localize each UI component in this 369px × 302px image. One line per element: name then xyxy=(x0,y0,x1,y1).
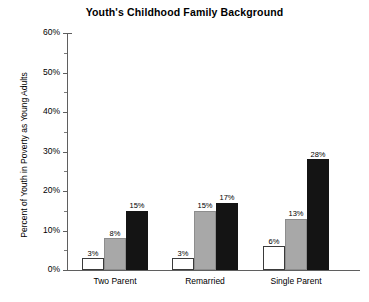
plot-area: 60% 50% 40% 30% 20% 10% 0% 3% xyxy=(67,33,360,270)
y-tick-30: 30% xyxy=(63,152,67,153)
bar-two-parent-series-3[interactable]: 15% xyxy=(126,211,148,270)
bar-single-parent-series-1[interactable]: 6% xyxy=(263,246,285,270)
y-tick-20: 20% xyxy=(63,191,67,192)
y-axis-line xyxy=(67,33,68,270)
bar-label-single-parent-series-1: 6% xyxy=(269,237,280,246)
bar-single-parent-series-2[interactable]: 13% xyxy=(285,219,307,270)
bar-label-remarried-series-2: 15% xyxy=(197,201,212,210)
bar-group-remarried: 3% 15% 17% xyxy=(172,33,252,270)
bar-two-parent-series-1[interactable]: 3% xyxy=(82,258,104,270)
bar-group-single-parent: 6% 13% 28% xyxy=(263,33,343,270)
bar-label-single-parent-series-3: 28% xyxy=(310,150,325,159)
y-tick-40: 40% xyxy=(63,112,67,113)
y-tick-minor-45 xyxy=(64,92,67,93)
y-tick-label-20: 20% xyxy=(43,185,60,195)
x-axis-label-single-parent: Single Parent xyxy=(270,276,321,286)
y-tick-minor-55 xyxy=(64,53,67,54)
bar-remarried-series-3[interactable]: 17% xyxy=(216,203,238,270)
y-tick-minor-35 xyxy=(64,132,67,133)
y-tick-label-30: 30% xyxy=(43,146,60,156)
y-tick-label-60: 60% xyxy=(43,27,60,37)
bar-single-parent-series-3[interactable]: 28% xyxy=(307,159,329,270)
bar-two-parent-series-2[interactable]: 8% xyxy=(104,238,126,270)
x-axis-line xyxy=(67,270,360,271)
y-axis-top-cap xyxy=(67,33,72,34)
bar-label-remarried-series-3: 17% xyxy=(219,193,234,202)
x-axis-label-two-parent: Two Parent xyxy=(94,276,137,286)
bar-group-two-parent: 3% 8% 15% xyxy=(82,33,162,270)
y-tick-10: 10% xyxy=(63,231,67,232)
bar-label-two-parent-series-3: 15% xyxy=(129,201,144,210)
y-tick-label-10: 10% xyxy=(43,225,60,235)
bar-label-two-parent-series-2: 8% xyxy=(110,229,121,238)
y-tick-minor-5 xyxy=(64,250,67,251)
bar-label-remarried-series-1: 3% xyxy=(178,249,189,258)
y-tick-60: 60% xyxy=(63,33,67,34)
bar-label-single-parent-series-2: 13% xyxy=(288,209,303,218)
chart-title: Youth's Childhood Family Background xyxy=(0,6,369,18)
y-axis-title: Percent of Youth in Poverty as Young Adu… xyxy=(19,45,29,265)
y-tick-0: 0% xyxy=(63,270,67,271)
y-tick-minor-15 xyxy=(64,211,67,212)
bar-chart-figure: Youth's Childhood Family Background Perc… xyxy=(0,0,369,302)
x-axis-label-remarried: Remarried xyxy=(185,276,225,286)
bar-remarried-series-2[interactable]: 15% xyxy=(194,211,216,270)
y-tick-minor-25 xyxy=(64,171,67,172)
y-tick-label-40: 40% xyxy=(43,106,60,116)
y-tick-label-0: 0% xyxy=(48,264,60,274)
y-tick-50: 50% xyxy=(63,73,67,74)
bar-remarried-series-1[interactable]: 3% xyxy=(172,258,194,270)
y-tick-label-50: 50% xyxy=(43,67,60,77)
bar-label-two-parent-series-1: 3% xyxy=(88,249,99,258)
